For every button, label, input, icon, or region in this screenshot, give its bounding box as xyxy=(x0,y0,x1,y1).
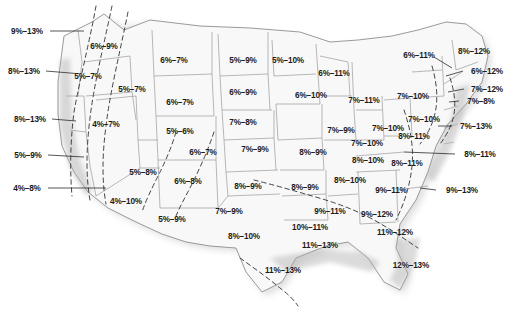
map-label-oregon-coast: 8%–13% xyxy=(8,67,40,76)
map-label-colorado: 6%–7% xyxy=(189,148,216,157)
map-label-california-north: 8%–13% xyxy=(14,115,46,124)
map-label-puget-sound: 9%–13% xyxy=(11,27,43,36)
map-label-california-coast: 4%–8% xyxy=(13,184,40,193)
map-label-new-mexico: 6%–8% xyxy=(174,177,201,186)
map-label-rhode-island: 7%–8% xyxy=(467,97,494,106)
map-label-maine: 8%–12% xyxy=(458,47,490,56)
us-percentage-range-map: 9%–13% 6%–9% 6%–7% 5%–9% 5%–10% 8%–12% 6… xyxy=(0,0,519,322)
map-label-missouri: 8%–9% xyxy=(299,148,326,157)
map-label-indiana: 7%–10% xyxy=(351,139,383,148)
map-label-nebraska: 7%–8% xyxy=(229,118,256,127)
map-label-new-jersey: 8%–11% xyxy=(398,132,429,141)
map-label-vermont: 6%–11% xyxy=(403,51,434,60)
map-label-kansas: 7%–9% xyxy=(241,145,268,154)
map-label-new-york: 7%–10% xyxy=(397,92,429,101)
map-label-north-carolina: 9%–11% xyxy=(375,186,406,195)
map-label-nevada-arizona: 5%–8% xyxy=(129,168,156,177)
map-label-gulf-coast: 11%–13% xyxy=(302,241,338,250)
map-label-south-texas: 11%–13% xyxy=(265,266,301,275)
map-label-south-dakota: 6%–9% xyxy=(229,88,256,97)
map-label-minnesota: 5%–10% xyxy=(272,56,304,65)
map-label-iowa: 6%–10% xyxy=(295,91,327,100)
map-label-wisconsin: 6%–11% xyxy=(318,69,349,78)
map-label-north-dakota: 5%–9% xyxy=(229,56,256,65)
map-label-pennsylvania: 7%–10% xyxy=(408,115,440,124)
map-label-massachusetts: 7%–12% xyxy=(471,85,503,94)
map-label-kentucky: 8%–10% xyxy=(352,156,384,165)
map-label-arizona: 4%–10% xyxy=(110,197,142,206)
map-label-texas-north: 7%–9% xyxy=(215,207,242,216)
map-label-georgia: 11%–12% xyxy=(377,228,413,237)
map-label-louisiana: 10%–11% xyxy=(292,223,328,232)
map-label-michigan: 7%–11% xyxy=(348,96,379,105)
map-label-idaho: 5%–7% xyxy=(118,85,145,94)
map-label-mississippi: 9%–11% xyxy=(314,207,345,216)
map-label-arkansas: 8%–9% xyxy=(291,183,318,192)
map-label-connecticut: 7%–13% xyxy=(460,122,492,131)
us-map-graphic xyxy=(0,0,519,322)
map-label-new-hampshire: 6%–12% xyxy=(471,67,503,76)
map-label-oregon: 5%–7% xyxy=(74,72,101,81)
map-label-maryland: 9%–13% xyxy=(446,186,478,195)
map-label-illinois: 7%–9% xyxy=(327,126,354,135)
map-label-alabama: 9%–12% xyxy=(361,210,393,219)
map-label-florida-peninsula: 12%–13% xyxy=(393,261,429,270)
map-label-oklahoma: 8%–9% xyxy=(234,182,261,191)
map-label-texas-border: 5%–9% xyxy=(158,215,185,224)
map-label-texas-south: 8%–10% xyxy=(228,232,260,241)
map-label-utah: 5%–6% xyxy=(166,127,193,136)
map-label-tennessee: 8%–10% xyxy=(334,176,366,185)
map-label-california-central: 5%–9% xyxy=(14,151,41,160)
map-label-delaware: 8%–11% xyxy=(464,150,495,159)
map-label-washington: 6%–9% xyxy=(90,42,117,51)
map-label-west-virginia: 8%–11% xyxy=(391,159,422,168)
map-label-wyoming: 6%–7% xyxy=(166,98,193,107)
map-label-montana: 6%–7% xyxy=(160,56,187,65)
map-label-nevada: 4%–7% xyxy=(92,120,119,129)
